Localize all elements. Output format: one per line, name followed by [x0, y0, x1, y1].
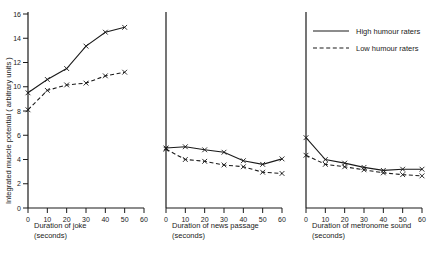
x-tick-label: 60 — [140, 216, 148, 223]
x-tick-label: 0 — [164, 216, 168, 223]
panel-metronome-series — [304, 135, 425, 178]
y-tick-label: 2 — [17, 180, 21, 187]
panel-metronome: 0102030405060 Duration of metronome soun… — [290, 0, 429, 265]
y-tick-group: 0246810121416 — [13, 11, 28, 212]
x-tick-label: 50 — [121, 216, 129, 223]
panel-news-svg: 0102030405060 Duration of news passage (… — [150, 0, 290, 265]
x-tick-label: 60 — [418, 216, 426, 223]
series-line-solid — [306, 138, 422, 171]
x-tick-label: 40 — [101, 216, 109, 223]
series-markers-dashed — [164, 147, 285, 176]
panel-joke-xlabel-line1: Duration of joke — [34, 221, 87, 230]
y-tick-label: 0 — [17, 205, 21, 212]
panel-joke: 0246810121416 0102030405060 Duration of … — [0, 0, 150, 265]
series-markers-solid — [304, 135, 425, 173]
series-line-solid — [28, 27, 125, 92]
panel-news-xlabel-line2: (seconds) — [172, 231, 205, 240]
panel-joke-xlabel-line2: (seconds) — [34, 231, 67, 240]
series-line-dashed — [28, 72, 125, 110]
y-tick-label: 4 — [17, 156, 21, 163]
legend-label-high: High humour raters — [356, 27, 420, 36]
x-tick-label: 60 — [278, 216, 286, 223]
x-tick-label: 0 — [26, 216, 30, 223]
panel-news-xlabel-line1: Duration of news passage — [172, 221, 259, 230]
series-markers-solid — [26, 25, 127, 95]
x-tick-label: 50 — [259, 216, 267, 223]
panel-joke-svg: 0246810121416 0102030405060 Duration of … — [0, 0, 150, 265]
panel-news-series — [164, 144, 285, 175]
figure-ylabel: Integrated muscle potential ( arbitrary … — [4, 57, 13, 204]
panel-news: 0102030405060 Duration of news passage (… — [150, 0, 290, 265]
y-tick-label: 16 — [13, 11, 21, 18]
y-tick-label: 10 — [13, 83, 21, 90]
figure-root: 0246810121416 0102030405060 Duration of … — [0, 0, 429, 265]
panel-joke-series — [26, 25, 127, 112]
series-markers-dashed — [304, 153, 425, 178]
y-tick-label: 12 — [13, 59, 21, 66]
series-markers-dashed — [26, 70, 127, 112]
panel-joke-yaxis: 0246810121416 — [13, 11, 28, 212]
legend-label-low: Low humour raters — [356, 44, 419, 53]
y-tick-label: 8 — [17, 108, 21, 115]
panel-metronome-svg: 0102030405060 Duration of metronome soun… — [290, 0, 429, 265]
x-tick-label: 0 — [304, 216, 308, 223]
panel-metronome-xlabel-line1: Duration of metronome sound — [312, 221, 411, 230]
y-tick-label: 6 — [17, 132, 21, 139]
y-tick-label: 14 — [13, 35, 21, 42]
legend: High humour raters Low humour raters — [313, 27, 420, 53]
panel-metronome-xlabel-line2: (seconds) — [312, 231, 345, 240]
